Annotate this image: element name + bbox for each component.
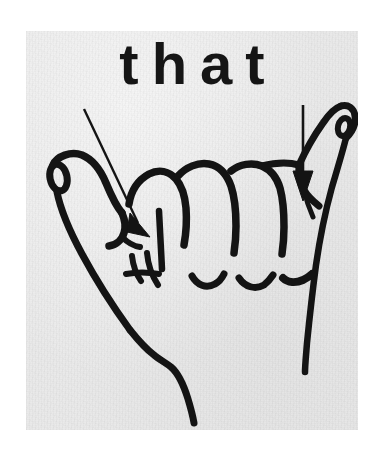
knuckle-divider-bar xyxy=(159,211,162,269)
wrist-contour xyxy=(130,330,194,423)
illustration-page: that xyxy=(0,0,380,454)
contact-hook-lower-a xyxy=(132,256,141,281)
pinky-outer-edge xyxy=(299,106,341,165)
knuckle-crease-3 xyxy=(283,274,312,282)
hand-outline-group xyxy=(47,105,355,423)
contact-hook-upper xyxy=(122,237,140,247)
hand-sign-drawing xyxy=(26,31,358,430)
scanned-photo-plate: that xyxy=(26,31,358,430)
annotation-arrows xyxy=(84,105,313,237)
hand-top-contour xyxy=(262,163,299,166)
left-arrow-head xyxy=(127,213,150,237)
contact-hook-cross xyxy=(126,273,159,275)
pinky-nail-icon xyxy=(336,117,352,137)
knuckle-crease-2 xyxy=(239,275,273,287)
contact-hook-lower-b xyxy=(147,253,158,285)
knuckle-crease-1 xyxy=(192,274,224,286)
